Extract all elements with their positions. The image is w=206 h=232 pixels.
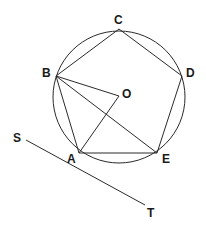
segment-BE	[56, 76, 157, 153]
label-D: D	[186, 66, 195, 80]
label-E: E	[162, 152, 170, 166]
segment-CD	[119, 29, 182, 76]
label-T: T	[147, 206, 155, 220]
geometry-diagram: C D B O A E S T	[0, 0, 206, 232]
label-C: C	[114, 13, 123, 27]
segment-AB	[56, 76, 79, 153]
segment-BC	[56, 29, 119, 76]
label-B: B	[42, 66, 51, 80]
tangent-line-ST	[26, 140, 145, 205]
label-O: O	[122, 87, 131, 101]
segment-OA	[79, 96, 119, 153]
circumscribed-circle	[53, 31, 185, 163]
label-S: S	[13, 131, 21, 145]
segment-DE	[157, 76, 182, 153]
segment-BO	[56, 76, 119, 96]
label-A: A	[67, 152, 76, 166]
